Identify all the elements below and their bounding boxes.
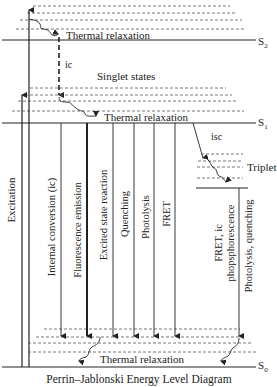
ic-label: ic <box>65 59 73 70</box>
s2-thermal-relaxation-path <box>29 19 58 36</box>
fluorescence-label: Fluorescence emission <box>72 182 83 278</box>
s2-label: S2 <box>258 35 268 50</box>
s1-label: S1 <box>258 116 268 131</box>
s2-vibrational-levels <box>16 6 246 29</box>
s0-vibrational-levels <box>28 329 256 352</box>
photolysis-quenching-label: Photolysis, quenching <box>243 199 254 293</box>
s0-label: S0 <box>258 359 268 374</box>
isc-arrow <box>193 123 203 158</box>
triplet-label: Triplet <box>247 161 277 173</box>
internal-conversion-label: Internal conversion (ic) <box>46 177 58 276</box>
fret-label: FRET <box>161 201 172 227</box>
diagram-title: Perrin–Jablonski Energy Level Diagram <box>46 373 231 386</box>
fret-ic-label: FRET, ic <box>213 224 224 262</box>
jablonski-diagram: S2 Thermal relaxation ic Singlet states … <box>0 0 277 387</box>
s2-thermal-relaxation-label: Thermal relaxation <box>66 29 150 41</box>
s1-thermal-relaxation-path <box>59 97 96 116</box>
s1-vibrational-levels <box>12 88 244 111</box>
photolysis-label: Photolysis <box>140 195 151 239</box>
s0-thermal-relaxation-label: Thermal relaxation <box>100 353 184 365</box>
isc-label: isc <box>211 131 223 142</box>
s1-thermal-relaxation-label: Thermal relaxation <box>104 111 188 123</box>
excitation-label: Excitation <box>5 177 17 223</box>
triplet-thermal-relaxation-path <box>207 159 226 182</box>
quenching-label: Quenching <box>119 190 130 237</box>
s0-thermal-relaxation-path-right <box>221 338 239 361</box>
triplet-vibrational-levels <box>197 154 243 178</box>
singlet-states-label: Singlet states <box>97 70 155 82</box>
excited-state-reaction-label: Excited state reaction <box>98 169 109 260</box>
phosphorescence-label: phopsphorescence <box>225 204 236 281</box>
s0-thermal-relaxation-path-left <box>79 337 100 361</box>
